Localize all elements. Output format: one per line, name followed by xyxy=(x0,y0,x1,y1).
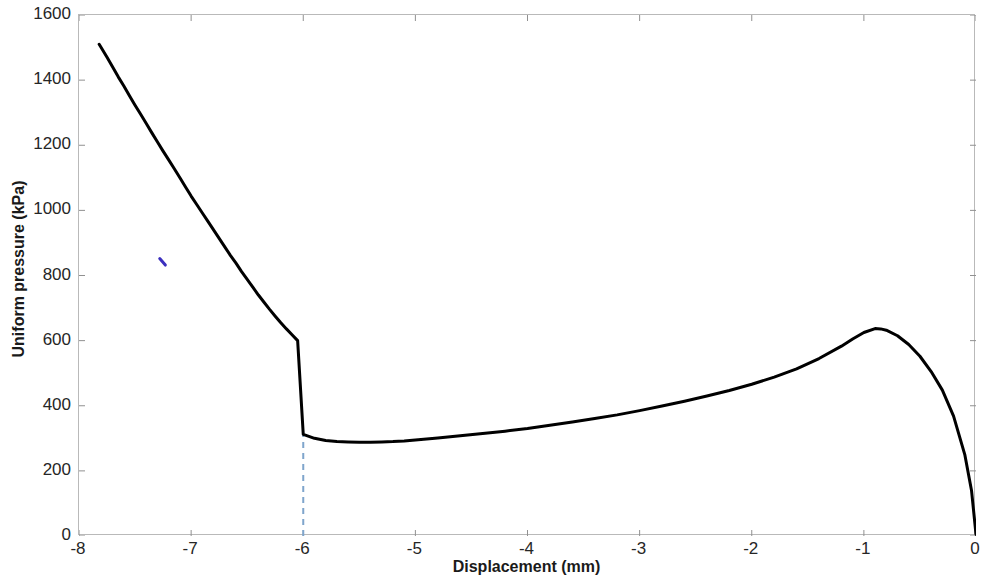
y-tick-label: 200 xyxy=(43,460,71,480)
x-tick-label: -5 xyxy=(407,539,422,559)
y-tick-label: 1400 xyxy=(33,69,71,89)
y-tick-label: 1600 xyxy=(33,4,71,24)
y-tick-label: 1000 xyxy=(33,199,71,219)
x-tick-label: -1 xyxy=(855,539,870,559)
plot-svg xyxy=(79,15,976,536)
y-axis-label: Uniform pressure (kPa) xyxy=(10,129,28,409)
x-tick-label: 0 xyxy=(970,539,979,559)
y-tick-label: 1200 xyxy=(33,134,71,154)
y-tick-label: 400 xyxy=(43,395,71,415)
y-tick-label: 800 xyxy=(43,265,71,285)
x-tick-label: -3 xyxy=(631,539,646,559)
curve-marker-artifact xyxy=(160,259,166,266)
plot-area xyxy=(78,14,975,535)
x-tick-label: -4 xyxy=(519,539,534,559)
x-tick-label: -7 xyxy=(183,539,198,559)
x-tick-label: -6 xyxy=(295,539,310,559)
data-curve xyxy=(99,44,976,534)
x-tick-label: -2 xyxy=(743,539,758,559)
y-tick-label: 600 xyxy=(43,330,71,350)
x-axis-label: Displacement (mm) xyxy=(0,558,997,576)
figure-canvas: 02004006008001000120014001600 -8-7-6-5-4… xyxy=(0,0,997,584)
x-tick-label: -8 xyxy=(70,539,85,559)
